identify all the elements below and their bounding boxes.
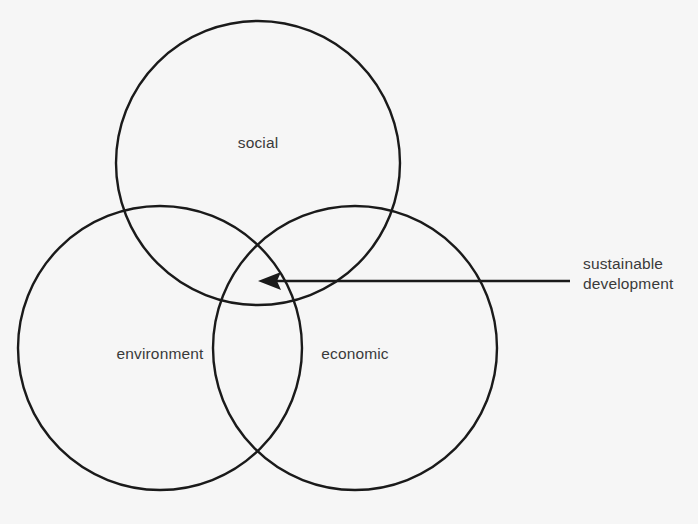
circle-social	[116, 21, 400, 305]
annotation-line-2: development	[583, 275, 673, 292]
annotation-line-1: sustainable	[583, 255, 663, 272]
label-social: social	[0, 133, 516, 153]
venn-diagram-figure: social environment economic sustainable …	[0, 0, 698, 524]
label-sustainable-development: sustainable development	[583, 254, 698, 295]
label-economic: economic	[213, 344, 497, 364]
